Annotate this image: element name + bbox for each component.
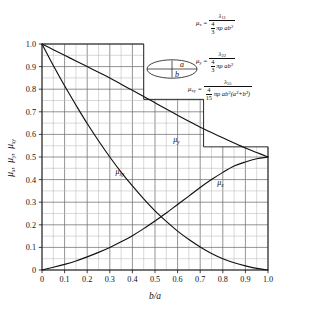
y-tick-label: 0.8: [26, 85, 36, 94]
y-tick-label: 0.6: [26, 130, 36, 139]
mu-x-formula: μx=λ1143 πρ ab2: [196, 12, 235, 36]
x-tick-label: 0: [40, 275, 44, 284]
chart-figure: μyμxμxy 00.10.20.30.40.50.60.70.80.91.00…: [0, 0, 319, 312]
x-tick-label: 0.8: [218, 275, 228, 284]
mu-xy-formula: μxy=λ55415 πρ ab2(a²+b²): [188, 78, 252, 102]
y-tick-label: 0.3: [26, 198, 36, 207]
y-tick-label: 0.4: [26, 176, 36, 185]
x-tick-label: 0.1: [59, 275, 69, 284]
x-axis-title: b/a: [149, 291, 161, 301]
y-tick-label: 0.1: [26, 243, 36, 252]
x-tick-label: 0.2: [82, 275, 92, 284]
x-tick-label: 0.4: [127, 275, 137, 284]
y-tick-label: 1.0: [26, 40, 36, 49]
x-tick-label: 0.5: [150, 275, 160, 284]
x-tick-label: 0.6: [172, 275, 182, 284]
mu-y-formula: μy=λ2243 πρ ab2: [196, 50, 235, 74]
curve-label-μ-y: μy: [172, 135, 180, 145]
chart-svg: μyμxμxy 00.10.20.30.40.50.60.70.80.91.00…: [0, 0, 319, 312]
ellipse-label-b: b: [175, 70, 179, 79]
y-axis-title: μx, μy, μxy: [5, 139, 16, 178]
x-tick-label: 0.9: [240, 275, 250, 284]
y-tick-label: 0: [32, 266, 36, 275]
x-tick-label: 1.0: [263, 275, 273, 284]
y-tick-label: 0.2: [26, 221, 36, 230]
ellipse-diagram: a b: [147, 60, 197, 79]
x-tick-label: 0.3: [105, 275, 115, 284]
ellipse-label-a: a: [180, 60, 184, 69]
x-tick-label: 0.7: [195, 275, 205, 284]
y-axis-title-group: μx, μy, μxy: [5, 139, 16, 178]
y-tick-label: 0.7: [26, 108, 36, 117]
y-tick-label: 0.5: [26, 153, 36, 162]
y-tick-label: 0.9: [26, 63, 36, 72]
